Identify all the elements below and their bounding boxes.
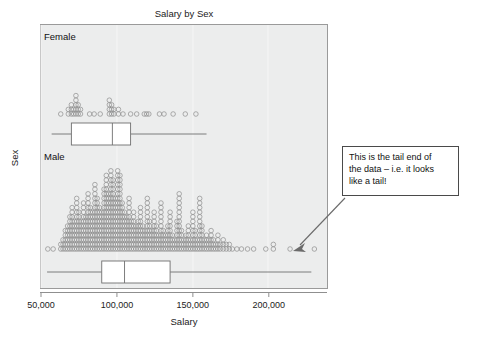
x-axis-ticks: 50,000100,000150,000200,000 [27, 292, 285, 310]
x-tick-label: 200,000 [253, 300, 286, 310]
annotation-line-2: the data – i.e. it looks [349, 164, 435, 174]
chart-title: Salary by Sex [155, 8, 214, 19]
x-tick-label: 50,000 [27, 300, 55, 310]
annotation-line-1: This is the tail end of [349, 152, 432, 162]
x-axis-title: Salary [171, 316, 198, 327]
panel-label-male: Male [44, 151, 65, 162]
x-tick-label: 150,000 [177, 300, 210, 310]
y-axis-title: Sex [9, 150, 20, 167]
annotation-line-3: like a tail! [349, 176, 387, 186]
x-tick-label: 100,000 [101, 300, 134, 310]
panel-label-female: Female [44, 31, 76, 42]
salary-by-sex-figure: Salary by Sex Female Male 50,000100,0001… [0, 0, 478, 342]
chart-container: Salary by Sex Female Male 50,000100,0001… [0, 0, 478, 342]
